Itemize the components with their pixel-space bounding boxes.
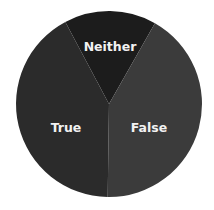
slice-label-true: True	[51, 120, 82, 135]
slice-label-false: False	[131, 120, 167, 135]
pie-chart: Neither True False	[0, 0, 214, 210]
slice-label-neither: Neither	[84, 39, 138, 54]
